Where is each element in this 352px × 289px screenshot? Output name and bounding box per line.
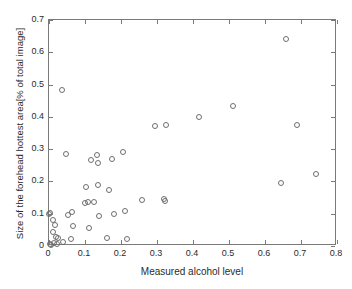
data-point xyxy=(109,156,115,162)
y-axis-tick xyxy=(49,181,53,182)
data-point xyxy=(104,235,110,241)
x-axis-tick xyxy=(265,240,266,244)
x-axis-tick xyxy=(229,20,230,24)
data-point xyxy=(85,199,91,205)
x-axis-tick-label: 0.6 xyxy=(249,248,279,259)
data-point xyxy=(60,239,66,245)
y-axis-tick xyxy=(331,246,335,247)
data-point xyxy=(294,122,300,128)
data-point xyxy=(152,123,158,129)
data-point xyxy=(124,236,130,242)
x-axis-tick-label: 0.3 xyxy=(141,248,171,259)
data-point xyxy=(83,184,89,190)
x-axis-title: Measured alcohol level xyxy=(48,266,336,277)
data-point xyxy=(230,103,236,109)
y-axis-tick xyxy=(331,52,335,53)
y-axis-tick xyxy=(49,52,53,53)
x-axis-tick xyxy=(337,240,338,244)
x-axis-tick xyxy=(157,240,158,244)
data-point xyxy=(63,151,69,157)
y-axis-tick xyxy=(331,20,335,21)
x-axis-tick xyxy=(49,240,50,244)
data-point xyxy=(278,180,284,186)
x-axis-tick-label: 0.7 xyxy=(285,248,315,259)
plot-area xyxy=(48,19,336,245)
x-axis-tick xyxy=(229,240,230,244)
y-axis-tick xyxy=(49,117,53,118)
data-point xyxy=(95,182,101,188)
x-axis-tick-label: 0.8 xyxy=(321,248,351,259)
data-point xyxy=(122,208,128,214)
data-point xyxy=(96,213,102,219)
y-axis-tick xyxy=(49,246,53,247)
data-point xyxy=(106,187,112,193)
x-axis-tick xyxy=(337,20,338,24)
data-point xyxy=(95,160,101,166)
y-axis-tick xyxy=(49,20,53,21)
data-point xyxy=(94,152,100,158)
x-axis-tick-label: 0.5 xyxy=(213,248,243,259)
x-axis-tick xyxy=(301,240,302,244)
x-axis-tick xyxy=(301,20,302,24)
data-point xyxy=(69,209,75,215)
data-point xyxy=(111,211,117,217)
data-point xyxy=(139,197,145,203)
y-axis-tick xyxy=(331,181,335,182)
scatter-plot-figure: 00.10.20.30.40.50.60.70.8 00.10.20.30.40… xyxy=(0,0,352,289)
y-axis-tick xyxy=(331,117,335,118)
x-axis-tick-label: 0.2 xyxy=(105,248,135,259)
x-axis-tick xyxy=(157,20,158,24)
data-point xyxy=(162,198,168,204)
data-point xyxy=(91,199,97,205)
x-axis-tick-label: 0.4 xyxy=(177,248,207,259)
x-axis-tick xyxy=(193,20,194,24)
data-point xyxy=(70,223,76,229)
y-axis-tick xyxy=(49,85,53,86)
data-point xyxy=(313,171,319,177)
y-axis-tick xyxy=(331,214,335,215)
y-axis-tick xyxy=(331,85,335,86)
x-axis-tick xyxy=(265,20,266,24)
data-point xyxy=(196,114,202,120)
data-point xyxy=(88,157,94,163)
x-axis-tick xyxy=(85,240,86,244)
x-axis-tick-label: 0.1 xyxy=(69,248,99,259)
x-axis-tick xyxy=(121,240,122,244)
data-point xyxy=(59,87,65,93)
data-point xyxy=(120,149,126,155)
y-axis-tick xyxy=(49,214,53,215)
data-point xyxy=(54,241,60,247)
data-point-layer xyxy=(49,20,335,244)
x-axis-tick xyxy=(193,240,194,244)
data-point xyxy=(86,225,92,231)
y-axis-tick xyxy=(49,149,53,150)
data-point xyxy=(52,222,58,228)
data-point xyxy=(283,36,289,42)
data-point xyxy=(68,236,74,242)
y-axis-tick xyxy=(331,149,335,150)
x-axis-tick xyxy=(121,20,122,24)
x-axis-tick xyxy=(85,20,86,24)
y-axis-title: Size of the forehead hottest area[% of t… xyxy=(14,19,25,249)
data-point xyxy=(163,122,169,128)
